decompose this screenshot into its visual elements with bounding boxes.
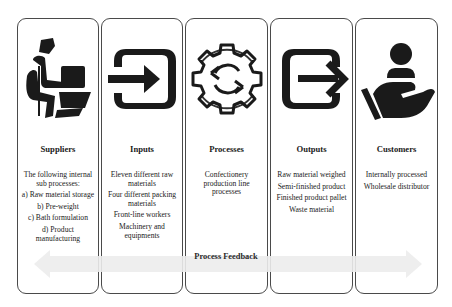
column-title: Customers bbox=[356, 144, 437, 154]
worker-carrying-boxes-icon bbox=[18, 33, 98, 125]
column-items: Confectionery production line processes bbox=[189, 171, 264, 200]
list-item: Four different packing materials bbox=[105, 191, 179, 208]
column-items: The following internal sub processes: a)… bbox=[21, 171, 95, 246]
sign-in-arrow-icon bbox=[102, 33, 182, 125]
column-title: Suppliers bbox=[18, 144, 98, 154]
column-items: Internally processed Wholesale distribut… bbox=[359, 171, 434, 194]
list-item: Wholesale distributor bbox=[359, 183, 434, 192]
list-item: Internally processed bbox=[359, 171, 434, 180]
column-title: Processes bbox=[186, 144, 267, 154]
column-items: Raw material weighed Semi-finished produ… bbox=[274, 171, 349, 217]
list-item: Machinery and equipments bbox=[105, 223, 179, 240]
process-feedback-label: Process Feedback bbox=[0, 252, 452, 261]
list-item: d) Product manufacturing bbox=[21, 226, 95, 243]
column-title: Inputs bbox=[102, 144, 182, 154]
list-item: Finished product pallet bbox=[274, 194, 349, 203]
list-item: Front-line workers bbox=[105, 211, 179, 220]
list-item: Eleven different raw materials bbox=[105, 171, 179, 188]
list-item: The following internal sub processes: bbox=[21, 171, 95, 188]
list-item: Raw material weighed bbox=[274, 171, 349, 180]
list-item: c) Bath formulation bbox=[21, 214, 95, 223]
sign-out-arrow-icon bbox=[271, 33, 352, 125]
column-title: Outputs bbox=[271, 144, 352, 154]
list-item: a) Raw material storage bbox=[21, 191, 95, 200]
hand-holding-person-icon bbox=[356, 33, 437, 125]
list-item: b) Pre-weight bbox=[21, 203, 95, 212]
list-item: Semi-finished product bbox=[274, 183, 349, 192]
column-items: Eleven different raw materials Four diff… bbox=[105, 171, 179, 243]
list-item: Confectionery production line processes bbox=[189, 171, 264, 197]
gear-cycle-icon bbox=[186, 33, 267, 125]
list-item: Waste material bbox=[274, 206, 349, 215]
